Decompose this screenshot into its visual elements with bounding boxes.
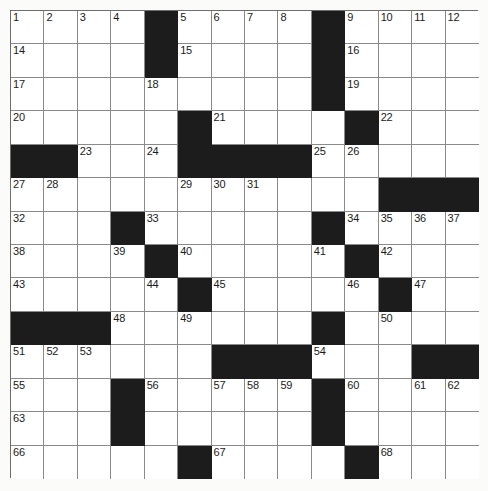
crossword-cell[interactable] bbox=[446, 446, 479, 479]
crossword-cell[interactable] bbox=[446, 278, 479, 311]
crossword-cell[interactable] bbox=[78, 178, 111, 211]
crossword-cell[interactable]: 56 bbox=[145, 379, 178, 412]
crossword-cell[interactable] bbox=[178, 379, 211, 412]
crossword-cell[interactable] bbox=[379, 379, 412, 412]
crossword-cell[interactable] bbox=[212, 412, 245, 445]
crossword-cell[interactable]: 34 bbox=[345, 212, 378, 245]
crossword-cell[interactable] bbox=[212, 245, 245, 278]
crossword-cell[interactable] bbox=[245, 446, 278, 479]
crossword-cell[interactable]: 14 bbox=[11, 44, 44, 77]
crossword-cell[interactable] bbox=[412, 145, 445, 178]
crossword-cell[interactable] bbox=[44, 278, 77, 311]
crossword-cell[interactable]: 37 bbox=[446, 212, 479, 245]
crossword-cell[interactable] bbox=[312, 278, 345, 311]
crossword-cell[interactable] bbox=[145, 412, 178, 445]
crossword-cell[interactable] bbox=[111, 78, 144, 111]
crossword-cell[interactable]: 52 bbox=[44, 345, 77, 378]
crossword-cell[interactable] bbox=[345, 312, 378, 345]
crossword-cell[interactable] bbox=[379, 145, 412, 178]
crossword-cell[interactable] bbox=[111, 111, 144, 144]
crossword-cell[interactable] bbox=[278, 78, 311, 111]
crossword-cell[interactable]: 33 bbox=[145, 212, 178, 245]
crossword-cell[interactable] bbox=[44, 78, 77, 111]
crossword-cell[interactable]: 63 bbox=[11, 412, 44, 445]
crossword-cell[interactable]: 41 bbox=[312, 245, 345, 278]
crossword-cell[interactable]: 60 bbox=[345, 379, 378, 412]
crossword-cell[interactable]: 53 bbox=[78, 345, 111, 378]
crossword-cell[interactable] bbox=[44, 111, 77, 144]
crossword-cell[interactable] bbox=[412, 446, 445, 479]
crossword-cell[interactable] bbox=[278, 278, 311, 311]
crossword-cell[interactable] bbox=[212, 78, 245, 111]
crossword-cell[interactable]: 12 bbox=[446, 11, 479, 44]
crossword-cell[interactable] bbox=[44, 379, 77, 412]
crossword-cell[interactable] bbox=[78, 278, 111, 311]
crossword-cell[interactable]: 27 bbox=[11, 178, 44, 211]
crossword-cell[interactable]: 10 bbox=[379, 11, 412, 44]
crossword-cell[interactable]: 58 bbox=[245, 379, 278, 412]
crossword-cell[interactable]: 43 bbox=[11, 278, 44, 311]
crossword-cell[interactable]: 9 bbox=[345, 11, 378, 44]
crossword-cell[interactable]: 66 bbox=[11, 446, 44, 479]
crossword-cell[interactable] bbox=[379, 412, 412, 445]
crossword-cell[interactable] bbox=[245, 212, 278, 245]
crossword-cell[interactable]: 16 bbox=[345, 44, 378, 77]
crossword-cell[interactable] bbox=[44, 245, 77, 278]
crossword-cell[interactable] bbox=[345, 345, 378, 378]
crossword-cell[interactable] bbox=[446, 78, 479, 111]
crossword-cell[interactable] bbox=[44, 446, 77, 479]
crossword-cell[interactable] bbox=[278, 212, 311, 245]
crossword-cell[interactable]: 28 bbox=[44, 178, 77, 211]
crossword-cell[interactable] bbox=[412, 111, 445, 144]
crossword-cell[interactable] bbox=[178, 212, 211, 245]
crossword-cell[interactable] bbox=[145, 446, 178, 479]
crossword-cell[interactable] bbox=[278, 111, 311, 144]
crossword-cell[interactable] bbox=[245, 78, 278, 111]
crossword-cell[interactable]: 18 bbox=[145, 78, 178, 111]
crossword-cell[interactable]: 38 bbox=[11, 245, 44, 278]
crossword-cell[interactable]: 1 bbox=[11, 11, 44, 44]
crossword-cell[interactable] bbox=[178, 412, 211, 445]
crossword-cell[interactable] bbox=[111, 345, 144, 378]
crossword-cell[interactable]: 62 bbox=[446, 379, 479, 412]
crossword-cell[interactable]: 36 bbox=[412, 212, 445, 245]
crossword-cell[interactable] bbox=[278, 412, 311, 445]
crossword-cell[interactable] bbox=[379, 44, 412, 77]
crossword-cell[interactable] bbox=[111, 446, 144, 479]
crossword-cell[interactable] bbox=[212, 212, 245, 245]
crossword-cell[interactable]: 22 bbox=[379, 111, 412, 144]
crossword-cell[interactable]: 45 bbox=[212, 278, 245, 311]
crossword-cell[interactable]: 3 bbox=[78, 11, 111, 44]
crossword-cell[interactable]: 26 bbox=[345, 145, 378, 178]
crossword-cell[interactable] bbox=[111, 44, 144, 77]
crossword-cell[interactable] bbox=[78, 44, 111, 77]
crossword-cell[interactable] bbox=[412, 245, 445, 278]
crossword-cell[interactable] bbox=[278, 312, 311, 345]
crossword-cell[interactable]: 5 bbox=[178, 11, 211, 44]
crossword-cell[interactable]: 11 bbox=[412, 11, 445, 44]
crossword-cell[interactable]: 46 bbox=[345, 278, 378, 311]
crossword-cell[interactable] bbox=[446, 111, 479, 144]
crossword-cell[interactable] bbox=[412, 312, 445, 345]
crossword-cell[interactable] bbox=[178, 345, 211, 378]
crossword-cell[interactable]: 6 bbox=[212, 11, 245, 44]
crossword-cell[interactable] bbox=[278, 178, 311, 211]
crossword-cell[interactable]: 31 bbox=[245, 178, 278, 211]
crossword-cell[interactable] bbox=[78, 78, 111, 111]
crossword-cell[interactable]: 55 bbox=[11, 379, 44, 412]
crossword-grid[interactable]: 1234567891011121415161718192021222324252… bbox=[10, 10, 478, 478]
crossword-cell[interactable] bbox=[178, 78, 211, 111]
crossword-cell[interactable]: 2 bbox=[44, 11, 77, 44]
crossword-cell[interactable] bbox=[446, 145, 479, 178]
crossword-cell[interactable] bbox=[312, 178, 345, 211]
crossword-cell[interactable]: 57 bbox=[212, 379, 245, 412]
crossword-cell[interactable]: 8 bbox=[278, 11, 311, 44]
crossword-cell[interactable]: 15 bbox=[178, 44, 211, 77]
crossword-cell[interactable]: 44 bbox=[145, 278, 178, 311]
crossword-cell[interactable]: 7 bbox=[245, 11, 278, 44]
crossword-cell[interactable] bbox=[345, 178, 378, 211]
crossword-cell[interactable] bbox=[446, 412, 479, 445]
crossword-cell[interactable] bbox=[145, 312, 178, 345]
crossword-cell[interactable] bbox=[245, 312, 278, 345]
crossword-cell[interactable]: 40 bbox=[178, 245, 211, 278]
